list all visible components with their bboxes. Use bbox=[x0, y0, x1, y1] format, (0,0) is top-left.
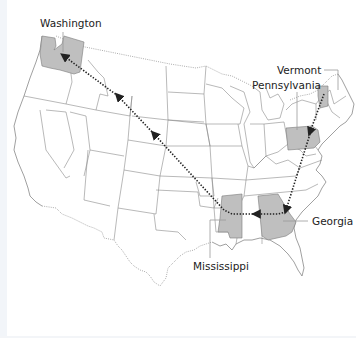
route-mississippi-to-washington-a bbox=[154, 134, 224, 210]
label-georgia: Georgia bbox=[312, 215, 353, 227]
state-mississippi[interactable] bbox=[218, 194, 242, 238]
state-pennsylvania[interactable] bbox=[286, 126, 320, 150]
label-pennsylvania: Pennsylvania bbox=[252, 79, 321, 91]
state-washington[interactable] bbox=[40, 36, 84, 74]
us-map: Washington Vermont Pennsylvania Georgia … bbox=[0, 0, 356, 338]
label-mississippi: Mississippi bbox=[193, 260, 249, 272]
state-georgia[interactable] bbox=[258, 194, 296, 240]
label-washington: Washington bbox=[40, 17, 102, 29]
label-vermont: Vermont bbox=[277, 64, 321, 76]
route-mississippi-to-washington-c bbox=[64, 56, 118, 96]
